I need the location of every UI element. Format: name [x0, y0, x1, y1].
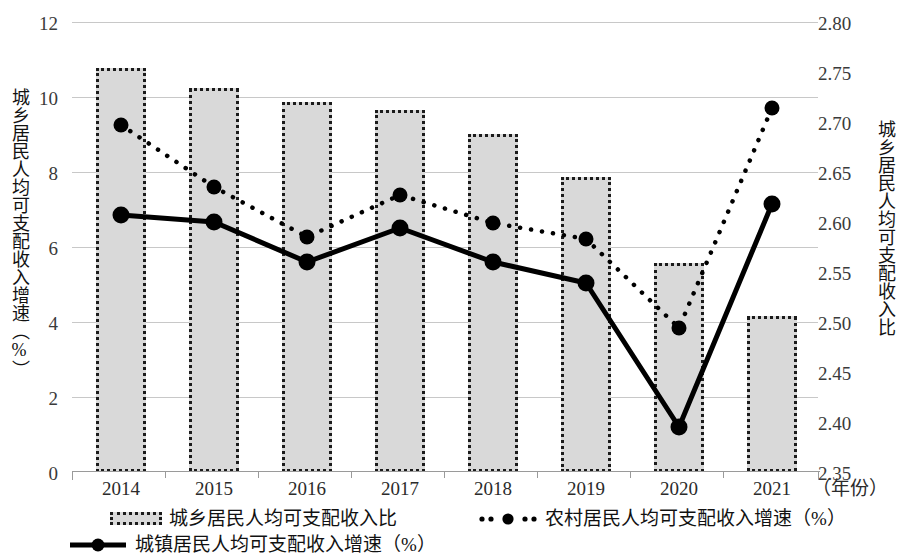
- y-right-tick-275: 2.75: [818, 64, 878, 83]
- bar-2019: [561, 177, 611, 472]
- y-left-tick-12: 12: [0, 14, 58, 33]
- x-label-2021: 2021: [727, 479, 817, 498]
- bar-2016: [282, 102, 332, 472]
- y-right-tick-240: 2.40: [818, 414, 878, 433]
- legend-label-rural-growth: 农村居民人均可支配收入增速（%）: [545, 509, 846, 528]
- x-axis-line: [72, 471, 820, 472]
- x-axis-tick-3: [351, 471, 352, 478]
- x-label-2016: 2016: [262, 479, 352, 498]
- x-axis-tick-2: [258, 471, 259, 478]
- y-right-tick-255: 2.55: [818, 264, 878, 283]
- chart-legend: 城乡居民人均可支配收入比 农村居民人均可支配收入增速（%） 城镇居民人均可支配收…: [0, 505, 901, 557]
- bar-swatch-icon: [110, 512, 162, 525]
- y-left-tick-0: 0: [0, 464, 58, 483]
- y-right-tick-265: 2.65: [818, 164, 878, 183]
- gridline-2: [72, 397, 818, 398]
- x-axis-tick-4: [444, 471, 445, 478]
- x-axis-tick-6: [630, 471, 631, 478]
- bar-2020: [654, 263, 704, 472]
- chart-container: 12 10 8 6 4 2 0 2.80 2.75 2.70 2.65 2.60…: [0, 0, 901, 557]
- x-label-2014: 2014: [76, 479, 166, 498]
- y-right-tick-260: 2.60: [818, 214, 878, 233]
- x-label-2015: 2015: [169, 479, 259, 498]
- y-right-tick-270: 2.70: [818, 114, 878, 133]
- gridline-6: [72, 247, 818, 248]
- x-axis-tick-5: [537, 471, 538, 478]
- x-label-2017: 2017: [355, 479, 445, 498]
- plot-area: [72, 22, 818, 472]
- dotted-line-marker-icon: [478, 511, 538, 527]
- legend-label-income-ratio: 城乡居民人均可支配收入比: [169, 509, 397, 528]
- gridline-10: [72, 97, 818, 98]
- legend-label-urban-growth: 城镇居民人均可支配收入增速（%）: [135, 535, 436, 554]
- bar-2015: [189, 88, 239, 472]
- legend-item-urban-growth: 城镇居民人均可支配收入增速（%）: [68, 535, 436, 554]
- solid-line-marker-icon: [68, 537, 128, 553]
- bar-2018: [468, 134, 518, 472]
- gridline-8: [72, 172, 818, 173]
- y-right-tick-250: 2.50: [818, 314, 878, 333]
- bar-2021: [747, 316, 797, 472]
- x-label-2020: 2020: [634, 479, 724, 498]
- x-label-2018: 2018: [448, 479, 538, 498]
- x-axis-tick-1: [165, 471, 166, 478]
- bar-2017: [375, 110, 425, 472]
- x-axis-tick-7: [723, 471, 724, 478]
- bar-2014: [96, 68, 146, 472]
- legend-item-income-ratio: 城乡居民人均可支配收入比: [110, 509, 397, 528]
- legend-item-rural-growth: 农村居民人均可支配收入增速（%）: [478, 509, 846, 528]
- y-axis-right-title: 城乡居民人均可支配收入比: [872, 120, 898, 450]
- x-axis-unit-label: （年份）: [812, 479, 888, 498]
- x-axis-tick-start: [72, 471, 73, 480]
- y-right-tick-245: 2.45: [818, 364, 878, 383]
- gridline-4: [72, 322, 818, 323]
- x-label-2019: 2019: [541, 479, 631, 498]
- y-axis-left-title: 城乡居民人均可支配收入增速（%）: [6, 88, 32, 448]
- gridline-12: [72, 22, 818, 23]
- y-right-tick-280: 2.80: [818, 14, 878, 33]
